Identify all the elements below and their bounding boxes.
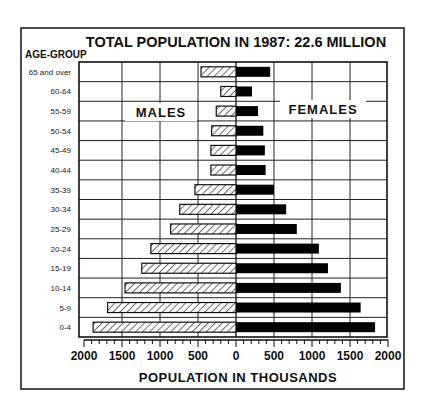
- age-group-label: 10-14: [51, 284, 72, 293]
- y-axis-label: AGE-GROUP: [25, 49, 87, 60]
- age-group-label: 65 and over: [29, 68, 72, 77]
- female-bar: [236, 185, 274, 195]
- male-bar: [195, 185, 236, 195]
- female-bar: [236, 86, 252, 96]
- x-tick-label: 0: [233, 349, 240, 363]
- female-bar: [236, 126, 263, 136]
- age-group-label: 40-44: [51, 166, 72, 175]
- female-bar: [236, 283, 341, 293]
- age-group-label: 5-9: [59, 304, 71, 313]
- age-group-label: 20-24: [51, 245, 72, 254]
- age-group-label: 15-19: [51, 264, 72, 273]
- male-bar: [216, 106, 236, 116]
- female-bar: [236, 322, 375, 332]
- female-bar: [236, 165, 266, 175]
- x-axis-label: POPULATION IN THOUSANDS: [139, 370, 337, 385]
- female-bar: [236, 303, 361, 313]
- x-tick-label: 500: [188, 349, 208, 363]
- male-bar: [211, 165, 236, 175]
- male-bar: [93, 322, 236, 332]
- female-bar: [236, 67, 270, 77]
- x-tick-label: 1000: [147, 349, 174, 363]
- female-bar: [236, 145, 265, 155]
- age-group-label: 25-29: [51, 225, 72, 234]
- male-bar: [108, 303, 236, 313]
- x-tick-label: 1000: [299, 349, 326, 363]
- females-annotation: FEMALES: [288, 102, 357, 117]
- female-bar: [236, 244, 319, 254]
- age-group-labels: 65 and over60-6455-5950-5445-4940-4435-3…: [29, 68, 72, 332]
- age-group-label: 45-49: [51, 146, 72, 155]
- male-bar: [142, 263, 236, 273]
- female-bar: [236, 204, 286, 214]
- age-group-label: 50-54: [51, 127, 72, 136]
- males-annotation: MALES: [136, 105, 187, 120]
- population-pyramid-chart: TOTAL POPULATION IN 1987: 22.6 MILLION A…: [0, 0, 426, 420]
- age-group-label: 60-64: [51, 87, 72, 96]
- age-group-label: 30-34: [51, 205, 72, 214]
- male-bar: [171, 224, 236, 234]
- male-bar: [151, 244, 236, 254]
- female-bar: [236, 106, 258, 116]
- male-bar: [221, 86, 236, 96]
- x-axis: 2000150010005000500100015002000: [71, 340, 402, 363]
- male-bar: [212, 126, 236, 136]
- male-bar: [125, 283, 236, 293]
- x-tick-label: 2000: [375, 349, 402, 363]
- x-tick-label: 500: [264, 349, 284, 363]
- age-group-label: 0-4: [59, 323, 71, 332]
- x-tick-label: 1500: [109, 349, 136, 363]
- chart-title: TOTAL POPULATION IN 1987: 22.6 MILLION: [86, 34, 386, 50]
- x-tick-label: 2000: [71, 349, 98, 363]
- male-bar: [201, 67, 236, 77]
- female-bar: [236, 263, 328, 273]
- female-bar: [236, 224, 297, 234]
- male-bar: [211, 145, 236, 155]
- x-tick-label: 1500: [337, 349, 364, 363]
- age-group-label: 35-39: [51, 186, 72, 195]
- male-bar: [180, 204, 236, 214]
- age-group-label: 55-59: [51, 107, 72, 116]
